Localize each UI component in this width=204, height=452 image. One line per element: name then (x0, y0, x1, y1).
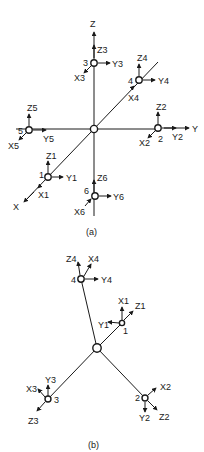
node-6-circle (92, 193, 98, 199)
caption-a: (a) (86, 227, 97, 237)
node-4-circle (136, 77, 142, 83)
node-2-a: 2 Z2 Y2 X2 (139, 102, 183, 148)
node-3-label: 3 (83, 58, 88, 68)
node-3-a: 3 Z3 Y3 X3 (74, 45, 123, 83)
node-5-a: 5 Z5 Y5 X5 (8, 103, 54, 151)
node-1-a: 1 Z1 Y1 X1 (38, 151, 77, 200)
global-x-axis (24, 192, 34, 202)
node-1-b: 1 X1 Z1 Y1 (98, 296, 146, 336)
x2-label: X2 (139, 138, 150, 148)
y1b-label: Y1 (98, 320, 109, 330)
z1b-label: Z1 (135, 301, 146, 311)
z3b-arrow (37, 402, 45, 411)
caption-b: (b) (88, 440, 99, 450)
y2b-label: Y2 (139, 413, 150, 423)
x3b-arrow (38, 389, 45, 397)
y1b-arrow (108, 322, 119, 323)
node-2-label: 2 (158, 134, 163, 144)
node-6-a: 6 Z6 Y6 X6 (74, 173, 124, 217)
node-2b-label: 2 (135, 393, 140, 403)
x4b-label: X4 (88, 254, 99, 264)
node-2-circle (155, 125, 161, 131)
node-6-label: 6 (84, 186, 89, 196)
z2b-arrow (148, 401, 157, 410)
member-to-2 (97, 348, 145, 398)
figure-a: Z Y X 3 Z3 Y3 X3 4 Z4 Y4 X4 (8, 19, 198, 237)
y4b-label: Y4 (101, 275, 112, 285)
global-y-label: Y (192, 124, 198, 134)
z5-label: Z5 (27, 103, 38, 113)
node-3-b: 3 Y3 X3 Z3 (26, 375, 59, 426)
x4b-arrow (84, 264, 91, 276)
node-1b-label: 1 (123, 326, 128, 336)
node-4-b: 4 Z4 X4 Y4 (66, 254, 112, 285)
node-4-a: 4 Z4 Y4 X4 (128, 53, 169, 103)
member-to-4 (81, 279, 97, 348)
x3b-label: X3 (26, 384, 37, 394)
member-to-3 (48, 348, 97, 399)
z3-label: Z3 (97, 45, 108, 55)
node-1-label: 1 (39, 170, 44, 180)
coordinate-systems-diagram: Z Y X 3 Z3 Y3 X3 4 Z4 Y4 X4 (0, 0, 204, 452)
x2b-arrow (148, 388, 156, 395)
node-5-circle (26, 127, 32, 133)
y2-label: Y2 (172, 132, 183, 142)
node-3-circle (91, 60, 97, 66)
node-2b-circle (142, 395, 148, 401)
x5-label: X5 (8, 141, 19, 151)
x2b-label: X2 (160, 382, 171, 392)
figure-b: 4 Z4 X4 Y4 1 X1 Z1 Y1 3 Y3 X3 Z3 (26, 254, 171, 450)
z4b-label: Z4 (66, 254, 77, 264)
node-3b-circle (45, 396, 51, 402)
x1b-label: X1 (118, 296, 129, 306)
node-2-b: 2 X2 Y2 Z2 (135, 382, 171, 423)
global-x-label: X (13, 202, 19, 212)
y6-label: Y6 (113, 192, 124, 202)
node-4b-circle (78, 276, 84, 282)
z4b-arrow (78, 262, 80, 275)
x6-arrow (85, 199, 91, 206)
z2b-label: Z2 (159, 412, 170, 422)
z1b-arrow (124, 311, 133, 320)
node-1b-circle (119, 320, 124, 325)
y3-label: Y3 (112, 59, 123, 69)
y1-label: Y1 (66, 173, 77, 183)
node-1-circle (45, 174, 51, 180)
y5-label: Y5 (43, 134, 54, 144)
center-node-a (90, 125, 97, 132)
node-4-label: 4 (128, 76, 133, 86)
node-3b-label: 3 (54, 395, 59, 405)
z3b-label: Z3 (28, 416, 39, 426)
global-z-label: Z (90, 19, 96, 29)
x6-label: X6 (74, 207, 85, 217)
y3b-label: Y3 (45, 375, 56, 385)
z6-label: Z6 (97, 173, 108, 183)
y4-label: Y4 (158, 76, 169, 86)
x1-arrow (38, 186, 40, 188)
x4-label: X4 (128, 93, 139, 103)
center-node-b (93, 344, 101, 352)
z1-label: Z1 (46, 151, 57, 161)
x3-label: X3 (74, 73, 85, 83)
z2-label: Z2 (156, 102, 167, 112)
x1-label: X1 (38, 190, 49, 200)
node-5-label: 5 (18, 126, 23, 136)
x2-arrow (148, 131, 155, 138)
z4-label: Z4 (137, 53, 148, 63)
node-4b-label: 4 (71, 275, 76, 285)
